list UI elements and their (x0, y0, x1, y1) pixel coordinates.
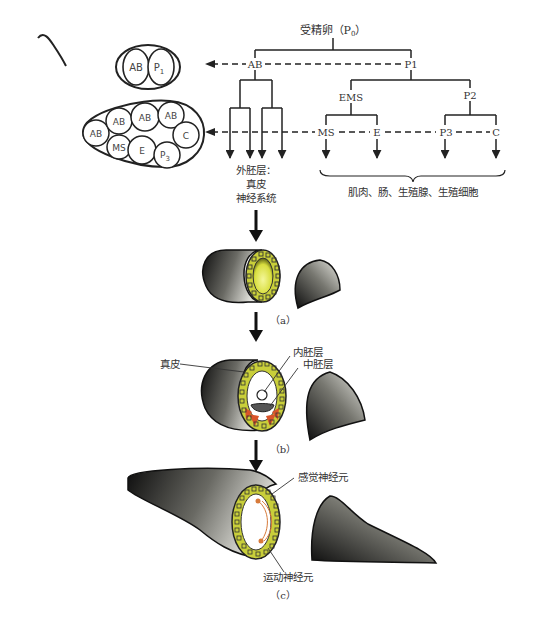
endoderm-label: 内胚层 (293, 346, 323, 358)
mesoderm-label: 中胚层 (303, 358, 333, 370)
diagram-canvas: AB P1 AB AB AB AB MS E P3 C (0, 0, 537, 625)
node-p2: P2 (463, 90, 476, 101)
embryo-8-cell: AB AB AB AB MS E P3 C (83, 101, 204, 168)
node-ms: MS (317, 127, 334, 138)
zygote-label: 受精卵（P0） (300, 24, 367, 38)
stage-b-caption: （b） (270, 444, 296, 455)
node-p1: P1 (404, 59, 417, 70)
node-e: E (373, 127, 380, 138)
sensory-neuron-label: 感觉神经元 (298, 471, 349, 483)
embryo-2-cell: AB P1 (116, 45, 180, 89)
worm-icon (38, 35, 66, 66)
stage-c-caption: （c） (270, 590, 296, 601)
node-c: C (492, 127, 500, 138)
motor-neuron-label: 运动神经元 (263, 571, 314, 583)
cell-ms-label: MS (112, 143, 126, 153)
arrow-left-icon (205, 128, 215, 136)
ectoderm-label: 外胚层： (236, 164, 276, 176)
node-ab: AB (247, 59, 263, 70)
cell-ab-label: AB (90, 129, 102, 139)
nervous-system-label: 神经系统 (236, 192, 277, 204)
cell-ab-label: AB (139, 113, 151, 123)
mesendoderm-derivatives-label: 肌肉、肠、生殖腺、生殖细胞 (348, 186, 479, 198)
stage-a-embryo (203, 250, 340, 308)
cell-ab-label: AB (129, 62, 143, 73)
cell-ab-label: AB (113, 117, 125, 127)
arrow-left-icon (205, 60, 215, 68)
cell-c-label: C (183, 131, 189, 141)
cell-ab-label: AB (165, 111, 177, 121)
stage-c-embryo (128, 468, 436, 572)
stage-a-caption: （a） (270, 315, 296, 326)
cell-e-label: E (139, 146, 145, 156)
dermis-label: 真皮 (246, 178, 267, 190)
node-p3: P3 (439, 127, 452, 138)
dermis-label: 真皮 (160, 358, 181, 370)
stage-b-embryo (180, 356, 365, 440)
node-ems: EMS (339, 92, 364, 103)
